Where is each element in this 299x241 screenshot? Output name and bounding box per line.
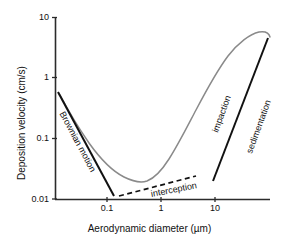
x-axis-title: Aerodynamic diameter (µm) [0, 223, 299, 234]
deposition-velocity-figure: 10 1 0.1 0.01 0.1 1 10 Aerodynamic diame… [0, 0, 299, 241]
curve-brownian-motion [58, 92, 114, 196]
x-tick-label-10: 10 [210, 203, 220, 213]
plot-canvas [0, 0, 299, 241]
y-tick-label-1: 1 [25, 72, 49, 82]
y-axis-title: Deposition velocity (cm/s) [16, 66, 27, 180]
y-tick-label-10: 10 [25, 12, 49, 22]
y-tick-label-0.01: 0.01 [20, 194, 49, 204]
x-tick-label-0.1: 0.1 [101, 203, 114, 213]
y-tick-label-0.1: 0.1 [25, 133, 49, 143]
x-tick-label-1: 1 [158, 203, 163, 213]
